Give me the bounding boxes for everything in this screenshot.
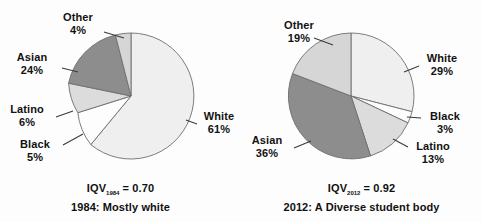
- iqv-label-2012: IQV: [328, 182, 347, 194]
- chart-caption-1984: IQV1984 = 0.70 1984: Mostly white: [0, 181, 241, 214]
- iqv-subscript-2012: 2012: [347, 190, 360, 196]
- leader-line-latino-1984: [56, 111, 73, 117]
- pie-label-other-2012: Other 19%: [271, 19, 327, 45]
- pie-label-latino-1984-name: Latino: [0, 103, 54, 116]
- pie-label-other-1984: Other 4%: [50, 11, 106, 37]
- iqv-line-2012: IQV2012 = 0.92: [241, 181, 482, 200]
- leader-line-asian-2012: [294, 141, 311, 148]
- chart-subtitle-1984: 1984: Mostly white: [0, 200, 241, 214]
- pie-label-asian-2012-value: 36%: [241, 147, 293, 160]
- pie-label-black-2012: Black 3%: [421, 110, 469, 136]
- pie-label-white-2012-value: 29%: [418, 65, 466, 78]
- pie-label-other-1984-value: 4%: [50, 24, 106, 37]
- pie-label-black-1984-value: 5%: [9, 151, 61, 164]
- pie-chart-figure: Other 4% Asian 24% Latino 6% Black 5% Wh…: [0, 0, 482, 222]
- pie-label-latino-2012-name: Latino: [407, 140, 459, 153]
- pie-label-latino-2012: Latino 13%: [407, 140, 459, 166]
- pie-label-black-2012-name: Black: [421, 110, 469, 123]
- pie-label-black-1984-name: Black: [9, 138, 61, 151]
- pie-label-black-2012-value: 3%: [421, 123, 469, 136]
- pie-label-other-2012-name: Other: [271, 19, 327, 32]
- iqv-value-1984: = 0.70: [119, 182, 154, 194]
- leader-line-latino-2012: [393, 139, 408, 147]
- pie-label-latino-2012-value: 13%: [407, 153, 459, 166]
- pie-label-white-1984-value: 61%: [198, 123, 240, 136]
- pie-label-other-1984-name: Other: [50, 11, 106, 24]
- pie-label-asian-1984: Asian 24%: [4, 51, 60, 77]
- pie-label-white-2012-name: White: [418, 52, 466, 65]
- leader-line-black-1984: [63, 134, 83, 145]
- pie-label-latino-1984-value: 6%: [0, 116, 54, 129]
- pie-label-white-2012: White 29%: [418, 52, 466, 78]
- chart-subtitle-2012: 2012: A Diverse student body: [241, 200, 482, 214]
- iqv-line-1984: IQV1984 = 0.70: [0, 181, 241, 200]
- pie-label-black-1984: Black 5%: [9, 138, 61, 164]
- iqv-label-1984: IQV: [87, 182, 106, 194]
- chart-panel-2012: Other 19% White 29% Black 3% Latino 13% …: [241, 0, 482, 222]
- pie-label-asian-1984-name: Asian: [4, 51, 60, 64]
- pie-label-latino-1984: Latino 6%: [0, 103, 54, 129]
- pie-label-asian-2012-name: Asian: [241, 134, 293, 147]
- iqv-subscript-1984: 1984: [106, 190, 119, 196]
- pie-label-white-1984: White 61%: [198, 110, 240, 136]
- chart-panel-1984: Other 4% Asian 24% Latino 6% Black 5% Wh…: [0, 0, 241, 222]
- pie-label-asian-1984-value: 24%: [4, 64, 60, 77]
- pie-label-white-1984-name: White: [198, 110, 240, 123]
- iqv-value-2012: = 0.92: [360, 182, 395, 194]
- chart-caption-2012: IQV2012 = 0.92 2012: A Diverse student b…: [241, 181, 482, 214]
- pie-label-other-2012-value: 19%: [271, 32, 327, 45]
- pie-label-asian-2012: Asian 36%: [241, 134, 293, 160]
